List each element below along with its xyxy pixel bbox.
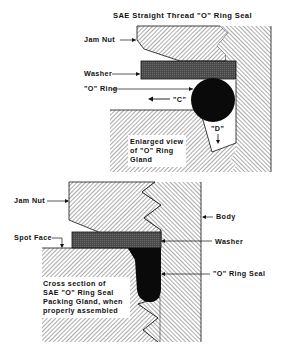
jam-nut-section (137, 26, 228, 61)
bottom-caption-line-1: Cross section of (43, 279, 106, 288)
top-figure: Enlarged view of "O" Ring Gland Jam Nut … (84, 26, 271, 172)
label-dim-d: "D" (211, 124, 224, 133)
bottom-caption-line-3: Packing Gland, when (43, 297, 123, 306)
bottom-figure: Cross section of SAE "O" Ring Seal Packi… (14, 182, 265, 342)
bottom-caption-line-4: properly assembled (43, 306, 118, 315)
label-washer-bottom: Washer (215, 237, 243, 246)
label-body: Body (216, 212, 236, 221)
label-dim-c: "C" (173, 95, 186, 104)
bottom-caption-line-2: SAE "O" Ring Seal (43, 288, 114, 297)
label-jam-nut-bottom: Jam Nut (14, 196, 45, 205)
label-washer-top: Washer (84, 69, 112, 78)
label-o-ring-top: "O" Ring (84, 84, 118, 93)
washer-bottom (72, 232, 161, 248)
label-spot-face: Spot Face (14, 233, 52, 242)
washer-top (141, 61, 236, 79)
label-jam-nut-top: Jam Nut (84, 35, 115, 44)
o-ring-top (191, 78, 235, 122)
top-caption-line-1: Enlarged view (130, 137, 184, 146)
top-caption-line-2: of "O" Ring (130, 146, 174, 155)
top-caption-line-3: Gland (130, 155, 152, 164)
diagram-title: SAE Straight Thread "O" Ring Seal (113, 11, 252, 20)
o-ring-seal-diagram: SAE Straight Thread "O" Ring Seal Enlarg… (0, 0, 285, 355)
label-o-ring-seal: "O" Ring Seal (213, 269, 265, 278)
